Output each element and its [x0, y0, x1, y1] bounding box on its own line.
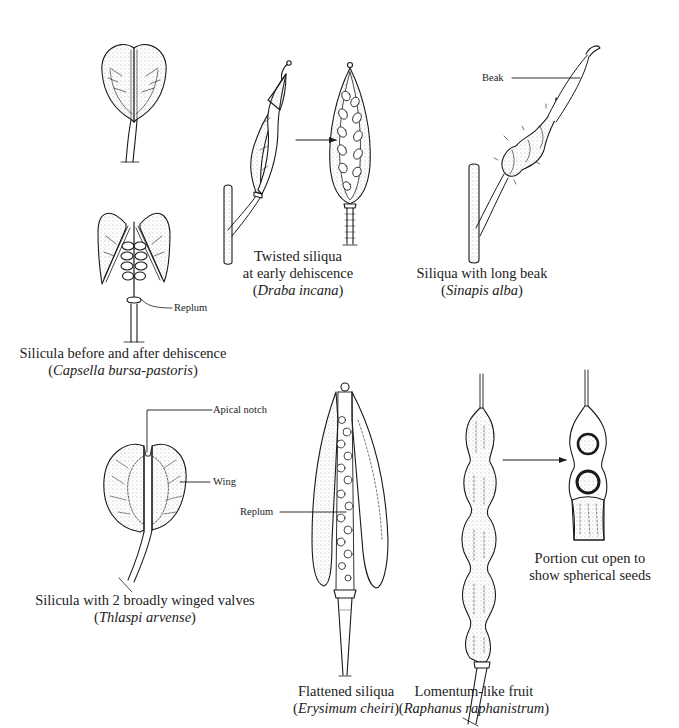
caption-raphanus: Lomentum-like fruit (Raphanus raphanistr… — [398, 683, 550, 717]
draba-open-pod-drawing — [330, 63, 371, 246]
capsella-silicula-open-drawing — [98, 213, 172, 342]
caption-raphanus-title: Lomentum-like fruit — [398, 683, 550, 700]
caption-erysimum: Flattened siliqua (Erysimum cheiri) — [290, 683, 402, 717]
caption-erysimum-species: (Erysimum cheiri) — [290, 700, 402, 717]
caption-raphanus-cut-line2: show spherical seeds — [520, 567, 660, 584]
caption-raphanus-cut: Portion cut open to show spherical seeds — [520, 550, 660, 584]
caption-sinapis-title: Siliqua with long beak — [412, 265, 552, 282]
caption-erysimum-title: Flattened siliqua — [290, 683, 402, 700]
caption-thlaspi: Silicula with 2 broadly winged valves (T… — [30, 592, 260, 626]
fruit-types-figure: Replum Beak Apical notch Wing Replum Sil… — [0, 0, 679, 728]
caption-draba-title: Twisted siliqua — [236, 248, 360, 265]
caption-thlaspi-title: Silicula with 2 broadly winged valves — [30, 592, 260, 609]
caption-thlaspi-species: (Thlaspi arvense) — [30, 609, 260, 626]
caption-draba-species: (Draba incana) — [236, 282, 360, 299]
caption-capsella-title: Silicula before and after dehiscence — [8, 345, 238, 362]
caption-raphanus-species: (Raphanus raphanistrum) — [398, 700, 550, 717]
raphanus-lomentum-drawing — [462, 374, 496, 726]
label-beak: Beak — [482, 72, 504, 84]
caption-capsella: Silicula before and after dehiscence (Ca… — [8, 345, 238, 379]
label-wing: Wing — [213, 476, 236, 488]
raphanus-cut-portion-drawing — [569, 370, 607, 540]
caption-sinapis: Siliqua with long beak (Sinapis alba) — [412, 265, 552, 299]
label-apical-notch: Apical notch — [213, 404, 267, 416]
erysimum-flattened-siliqua-drawing — [280, 383, 388, 676]
caption-draba-title-2: at early dehiscence — [236, 265, 360, 282]
caption-sinapis-species: (Sinapis alba) — [412, 282, 552, 299]
label-replum-erysimum: Replum — [240, 506, 273, 518]
label-replum-capsella: Replum — [174, 302, 207, 314]
capsella-silicula-closed-drawing — [102, 44, 166, 162]
caption-draba: Twisted siliqua at early dehiscence (Dra… — [236, 248, 360, 299]
caption-raphanus-cut-line1: Portion cut open to — [520, 550, 660, 567]
caption-capsella-species: (Capsella bursa-pastoris) — [8, 362, 238, 379]
draba-twisted-siliqua-drawing — [224, 61, 291, 264]
thlaspi-winged-silicula-drawing — [104, 410, 212, 592]
